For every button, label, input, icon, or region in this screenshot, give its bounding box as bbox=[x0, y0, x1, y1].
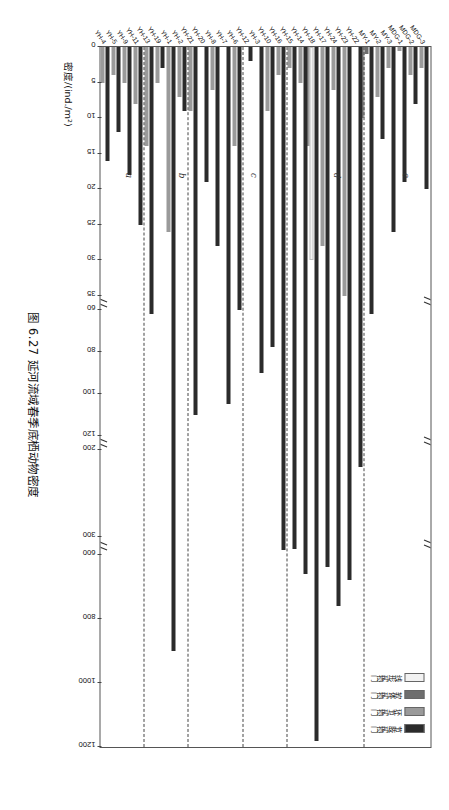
bar-YH-11-节肢动物门 bbox=[138, 47, 142, 225]
value-tick-label: 600 bbox=[82, 548, 95, 557]
value-tick-label: 200 bbox=[82, 443, 95, 452]
group-divider bbox=[363, 47, 364, 747]
value-tick bbox=[97, 746, 101, 747]
value-tick-label: 1000 bbox=[78, 676, 95, 685]
value-tick bbox=[97, 188, 101, 189]
group-divider bbox=[242, 47, 243, 747]
bar-YH-24-环节动物门 bbox=[331, 47, 335, 90]
value-tick bbox=[97, 82, 101, 83]
value-tick bbox=[97, 153, 101, 154]
group-divider bbox=[286, 47, 287, 747]
bar-MY-1-节肢动物门 bbox=[369, 47, 373, 314]
figure-stage: 黄土丘陵区森林草原区河源水区延河二期延河三期丰富区王窑水库包茂区 MDG-3MD… bbox=[0, 0, 449, 810]
bar-MDG-2-环节动物门 bbox=[408, 47, 412, 75]
value-tick-label: 60 bbox=[87, 303, 95, 312]
bar-YH-11-环节动物门 bbox=[133, 47, 137, 104]
bar-YH-9-环节动物门 bbox=[122, 47, 126, 83]
bar-YH-6-环节动物门 bbox=[232, 47, 236, 146]
bar-YH-23-环节动物门 bbox=[342, 47, 346, 296]
panel-letter-d: d bbox=[331, 173, 341, 178]
bar-YH-23-节肢动物门 bbox=[347, 47, 351, 580]
bar-YH-2-节肢动物门 bbox=[182, 47, 186, 111]
axis-break-mark bbox=[423, 436, 431, 450]
bar-MDG-1-节肢动物门 bbox=[402, 47, 406, 182]
value-axis-title: 密度/(ind./m²) bbox=[61, 62, 75, 127]
bar-YH-18-线形动物门 bbox=[309, 47, 313, 260]
value-tick bbox=[97, 259, 101, 260]
bar-YH-5-节肢动物门 bbox=[116, 47, 120, 132]
bar-YH-21-环节动物门 bbox=[188, 47, 192, 111]
bar-MDG-2-节肢动物门 bbox=[413, 47, 417, 104]
bar-YH-24-节肢动物门 bbox=[336, 47, 340, 606]
value-tick bbox=[97, 435, 101, 436]
bar-YH-6-节肢动物门 bbox=[237, 47, 241, 310]
value-tick-label: 5 bbox=[91, 76, 95, 85]
group-divider bbox=[143, 47, 144, 747]
value-tick-label: 80 bbox=[87, 345, 95, 354]
legend-label-annelida: 环节动物门 bbox=[371, 707, 401, 717]
legend-label-mollusca: 软体动物门 bbox=[371, 690, 401, 700]
legend-item-nematomorpha: 线形动物门 bbox=[371, 669, 424, 686]
value-tick bbox=[97, 554, 101, 555]
bar-YH-8-环节动物门 bbox=[210, 47, 214, 90]
value-tick bbox=[97, 295, 101, 296]
bar-YH-1-环节动物门 bbox=[166, 47, 170, 232]
value-tick-label: 25 bbox=[87, 218, 95, 227]
value-tick-label: 120 bbox=[82, 429, 95, 438]
bar-YH-16-环节动物门 bbox=[276, 47, 280, 75]
legend: 节肢动物门环节动物门软体动物门线形动物门 bbox=[371, 669, 424, 737]
bar-YH-1-节肢动物门 bbox=[171, 47, 175, 651]
value-tick-label: 800 bbox=[82, 612, 95, 621]
bar-YH-15-环节动物门 bbox=[287, 47, 291, 68]
bar-YH-2-环节动物门 bbox=[177, 47, 181, 97]
bar-YH-16-节肢动物门 bbox=[281, 47, 285, 550]
bar-YH-18-节肢动物门 bbox=[314, 47, 318, 741]
value-tick-label: 0 bbox=[91, 40, 95, 49]
value-tick-label: 30 bbox=[87, 253, 95, 262]
value-tick bbox=[97, 117, 101, 118]
panel-letter-a: a bbox=[123, 173, 133, 178]
figure-caption: 图 6.27 延河流域春季底栖动物密度 bbox=[25, 0, 41, 810]
value-tick bbox=[97, 46, 101, 47]
bar-YH-17-节肢动物门 bbox=[325, 47, 329, 567]
legend-swatch-annelida bbox=[404, 707, 424, 716]
legend-item-mollusca: 软体动物门 bbox=[371, 686, 424, 703]
bar-MY-3-节肢动物门 bbox=[391, 47, 395, 232]
panel-letter-e: e bbox=[400, 173, 410, 178]
legend-swatch-nematomorpha bbox=[404, 673, 424, 682]
bar-YH-4-节肢动物门 bbox=[105, 47, 109, 161]
bar-MY-1-软体动物门 bbox=[364, 47, 368, 54]
group-divider bbox=[187, 47, 188, 747]
bar-MDG-1-环节动物门 bbox=[397, 47, 401, 51]
bar-MY-2-节肢动物门 bbox=[380, 47, 384, 139]
axis-break-mark bbox=[423, 296, 431, 310]
bar-YH-8-节肢动物门 bbox=[215, 47, 219, 246]
bar-YH-21-节肢动物门 bbox=[193, 47, 197, 415]
legend-swatch-arthropoda bbox=[404, 724, 424, 733]
legend-label-arthropoda: 节肢动物门 bbox=[371, 724, 401, 734]
bar-YH-20-节肢动物门 bbox=[204, 47, 208, 182]
legend-label-nematomorpha: 线形动物门 bbox=[371, 673, 401, 683]
value-tick-label: 15 bbox=[87, 147, 95, 156]
bar-YH-14-节肢动物门 bbox=[303, 47, 307, 574]
panel-letter-c: c bbox=[248, 173, 258, 178]
bar-YH-13-节肢动物门 bbox=[149, 47, 153, 314]
value-tick bbox=[97, 309, 101, 310]
bar-YH-3-节肢动物门 bbox=[259, 47, 263, 373]
bar-MY-2-环节动物门 bbox=[375, 47, 379, 97]
bar-YH-5-环节动物门 bbox=[111, 47, 115, 75]
value-tick-label: 20 bbox=[87, 182, 95, 191]
bar-YH-15-节肢动物门 bbox=[292, 47, 296, 549]
bar-YH-12-节肢动物门 bbox=[248, 47, 252, 61]
value-tick bbox=[97, 351, 101, 352]
bar-YH-14-环节动物门 bbox=[298, 47, 302, 83]
bar-YH-10-节肢动物门 bbox=[270, 47, 274, 347]
bar-YH-7-节肢动物门 bbox=[226, 47, 230, 404]
value-tick-label: 35 bbox=[87, 289, 95, 298]
bar-MDG-3-环节动物门 bbox=[419, 47, 423, 68]
value-tick bbox=[97, 682, 101, 683]
value-tick bbox=[97, 224, 101, 225]
value-tick-label: 10 bbox=[87, 111, 95, 120]
value-tick bbox=[97, 449, 101, 450]
value-tick bbox=[97, 536, 101, 537]
